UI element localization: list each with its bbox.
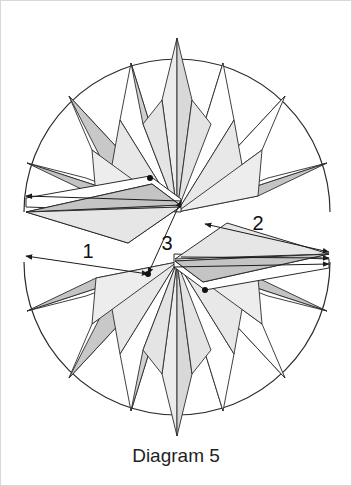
diagram-figure: 1 2 3 Diagram 5: [0, 0, 352, 486]
vertex-a-dot: [147, 175, 153, 181]
left-arm-tail: [26, 207, 180, 243]
diagram-canvas: 1 2 3 Diagram 5: [0, 0, 352, 486]
dim-3-label: 3: [161, 232, 172, 254]
figure-caption: Diagram 5: [132, 445, 220, 466]
vertex-e-dot: [202, 287, 208, 293]
dim-2-label: 2: [252, 212, 263, 234]
vertex-c-dot: [145, 271, 151, 277]
dim-1-label: 1: [82, 240, 93, 262]
